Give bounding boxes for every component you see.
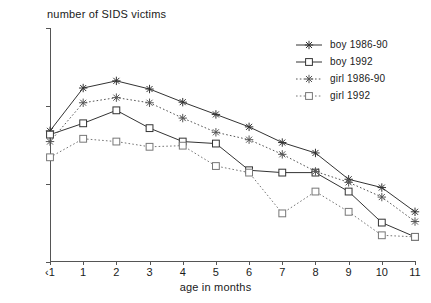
star-marker-icon	[212, 110, 220, 118]
legend-label: girl 1992	[330, 90, 370, 101]
star-marker-icon	[344, 178, 352, 186]
square-marker-icon	[378, 219, 385, 226]
data-series	[46, 93, 419, 225]
star-marker-icon	[278, 138, 286, 146]
square-marker-icon	[246, 169, 253, 176]
square-marker-icon	[47, 131, 54, 138]
square-marker-icon	[312, 188, 319, 195]
x-tick-label: 9	[346, 266, 352, 278]
legend-label: boy 1986-90	[330, 39, 388, 50]
square-marker-icon	[279, 169, 286, 176]
legend-swatch	[296, 90, 322, 102]
square-marker-icon	[345, 208, 352, 215]
legend-item[interactable]: boy 1986-90	[296, 36, 388, 53]
star-marker-icon	[112, 77, 120, 85]
star-marker-icon	[112, 93, 120, 101]
star-marker-icon	[305, 74, 313, 82]
data-series	[47, 107, 419, 240]
star-marker-icon	[278, 150, 286, 158]
square-marker-icon	[80, 120, 87, 127]
chart-legend: boy 1986-90boy 1992girl 1986-90girl 1992	[296, 36, 388, 104]
square-marker-icon	[213, 163, 220, 170]
star-marker-icon	[411, 208, 419, 216]
legend-swatch	[296, 56, 322, 68]
square-marker-icon	[306, 92, 313, 99]
star-marker-icon	[311, 167, 319, 175]
legend-item[interactable]: boy 1992	[296, 53, 388, 70]
square-marker-icon	[412, 233, 419, 240]
square-marker-icon	[345, 188, 352, 195]
star-marker-icon	[311, 149, 319, 157]
star-marker-icon	[179, 98, 187, 106]
sids-line-chart: number of SIDS victims 1101001000 ‹11234…	[0, 0, 431, 303]
star-marker-icon	[79, 99, 87, 107]
legend-label: boy 1992	[330, 56, 373, 67]
star-marker-icon	[145, 99, 153, 107]
x-tick-label: 5	[213, 266, 219, 278]
x-tick-label: 3	[146, 266, 152, 278]
x-tick-label: 8	[312, 266, 318, 278]
x-tick-label: 4	[180, 266, 186, 278]
x-tick-label: 11	[409, 266, 420, 278]
square-marker-icon	[306, 58, 313, 65]
legend-label: girl 1986-90	[330, 73, 385, 84]
star-marker-icon	[79, 84, 87, 92]
legend-item[interactable]: girl 1986-90	[296, 70, 388, 87]
square-marker-icon	[213, 140, 220, 147]
x-tick-mark	[415, 261, 416, 265]
star-marker-icon	[145, 85, 153, 93]
square-marker-icon	[80, 135, 87, 142]
square-marker-icon	[279, 210, 286, 217]
square-marker-icon	[113, 138, 120, 145]
legend-swatch	[296, 39, 322, 51]
x-tick-label: 6	[246, 266, 252, 278]
square-marker-icon	[113, 107, 120, 114]
x-tick-label: 2	[113, 266, 119, 278]
x-axis-title: age in months	[0, 281, 431, 293]
x-tick-label: ‹1	[45, 266, 55, 278]
star-marker-icon	[245, 135, 253, 143]
star-marker-icon	[411, 217, 419, 225]
star-marker-icon	[305, 40, 313, 48]
star-marker-icon	[46, 137, 54, 145]
square-marker-icon	[146, 143, 153, 150]
legend-item[interactable]: girl 1992	[296, 87, 388, 104]
data-series	[47, 135, 419, 240]
square-marker-icon	[47, 154, 54, 161]
series-line	[50, 110, 415, 237]
star-marker-icon	[378, 183, 386, 191]
legend-swatch	[296, 73, 322, 85]
star-marker-icon	[212, 128, 220, 136]
square-marker-icon	[378, 232, 385, 239]
star-marker-icon	[378, 193, 386, 201]
square-marker-icon	[179, 142, 186, 149]
chart-title: number of SIDS victims	[47, 8, 166, 20]
star-marker-icon	[245, 123, 253, 131]
square-marker-icon	[146, 125, 153, 132]
x-tick-label: 10	[376, 266, 388, 278]
star-marker-icon	[179, 114, 187, 122]
x-tick-label: 7	[279, 266, 285, 278]
x-tick-label: 1	[80, 266, 86, 278]
